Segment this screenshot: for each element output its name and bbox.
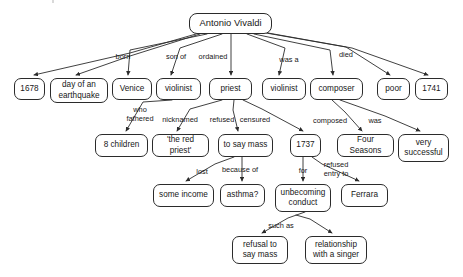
concept-node-verysuccessful[interactable]: very successful <box>398 134 449 162</box>
concept-node-poor[interactable]: poor <box>377 78 410 100</box>
concept-node-1678[interactable]: 1678 <box>14 78 45 100</box>
edge-label-for: for <box>299 167 308 176</box>
edge-label-was-a: was a <box>279 56 298 65</box>
concept-node-priest[interactable]: priest <box>209 78 252 100</box>
cropped-header-artifact <box>28 0 278 3</box>
concept-node-violinist-was[interactable]: violinist <box>262 78 306 100</box>
concept-map-canvas: Antonio Vivaldi1678day of an earthquakeV… <box>0 0 463 277</box>
edge-label-nicknamed: nicknamed <box>162 116 198 125</box>
edge-label-censured: censured <box>240 116 270 125</box>
concept-node-fourseasons[interactable]: Four Seasons <box>337 134 394 157</box>
concept-node-violinist-son[interactable]: violinist <box>156 78 201 100</box>
concept-node-redpriest[interactable]: 'the red priest' <box>152 134 209 157</box>
edge-label-died: died <box>339 51 353 60</box>
concept-node-relationship[interactable]: relationship with a singer <box>305 236 367 264</box>
edge-label-who-fathered: who fathered <box>126 106 153 123</box>
concept-node-earthquake[interactable]: day of an earthquake <box>50 78 108 103</box>
edge-label-lost: lost <box>196 168 208 177</box>
edge-vivaldi-to-poor <box>266 33 390 75</box>
concept-node-refusalsaymass[interactable]: refusal to say mass <box>232 236 288 264</box>
concept-node-1737[interactable]: 1737 <box>290 134 321 157</box>
concept-node-tosaymass[interactable]: to say mass <box>218 134 273 157</box>
edge-label-was: was <box>368 117 381 126</box>
edge-unbec-to-relationship <box>296 215 332 233</box>
concept-node-ferrara[interactable]: Ferrara <box>341 184 388 207</box>
concept-node-composer[interactable]: composer <box>310 78 363 100</box>
edge-label-refused-entry-to: refused entry to <box>324 161 349 178</box>
edge-label-refused: refused <box>210 116 235 125</box>
concept-node-unbecoming[interactable]: unbecoming conduct <box>275 184 331 212</box>
edge-label-such-as: such as <box>268 222 293 231</box>
concept-node-vivaldi[interactable]: Antonio Vivaldi <box>189 13 272 34</box>
concept-node-venice[interactable]: Venice <box>112 78 152 100</box>
edge-label-born: born <box>116 53 131 62</box>
concept-node-someincome[interactable]: some income <box>153 184 214 207</box>
concept-node-8children[interactable]: 8 children <box>95 134 148 157</box>
edge-label-because-of: because of <box>222 166 258 175</box>
edge-label-ordained: ordained <box>199 53 228 62</box>
concept-node-1741[interactable]: 1741 <box>415 78 448 100</box>
edge-label-son-of: son of <box>166 53 186 62</box>
concept-node-asthma[interactable]: asthma? <box>220 184 265 207</box>
edge-label-composed: composed <box>313 117 347 126</box>
